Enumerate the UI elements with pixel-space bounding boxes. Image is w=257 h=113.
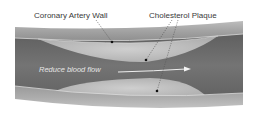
coronary-artery-diagram: Coronary Artery Wall Cholesterol Plaque … [0,0,257,113]
label-reduce-blood-flow: Reduce blood flow [39,66,101,74]
label-coronary-artery-wall: Coronary Artery Wall [34,12,108,20]
label-cholesterol-plaque: Cholesterol Plaque [149,12,217,20]
